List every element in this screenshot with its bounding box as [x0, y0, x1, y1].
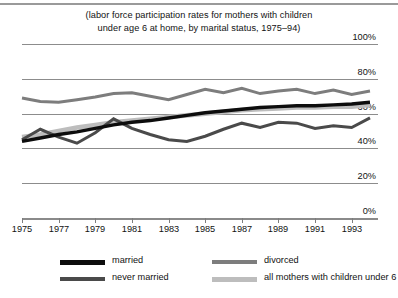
x-axis-tick-1985	[205, 218, 206, 223]
x-axis-label-1975: 1975	[2, 224, 42, 234]
x-axis-label-1987: 1987	[222, 224, 262, 234]
chart-title-line-1: (labor force participation rates for mot…	[0, 9, 398, 22]
chart-figure: (labor force participation rates for mot…	[0, 0, 398, 298]
legend-label: all mothers with children under 6	[264, 272, 396, 282]
legend-swatch-icon	[60, 260, 105, 265]
plot-area: 100%80%60%40%20%0% 197519771979198119831…	[22, 44, 378, 218]
x-axis-tick-1989	[278, 218, 279, 223]
x-axis-tick-1981	[132, 218, 133, 223]
legend-swatch-icon	[60, 277, 105, 281]
legend-label: never married	[112, 272, 169, 282]
x-axis-label-1983: 1983	[149, 224, 189, 234]
x-axis-tick-1987	[242, 218, 243, 223]
x-axis-label-1991: 1991	[295, 224, 335, 234]
x-axis-label-1985: 1985	[185, 224, 225, 234]
top-divider	[0, 3, 398, 5]
x-axis-label-1989: 1989	[258, 224, 298, 234]
x-axis-tick-1979	[95, 218, 96, 223]
legend-label: divorced	[264, 255, 299, 265]
chart-legend: marriednever marrieddivorcedall mothers …	[0, 250, 398, 294]
series-lines	[22, 44, 378, 218]
chart-title-line-2: under age 6 at home, by marital status, …	[0, 22, 398, 35]
x-axis-label-1977: 1977	[39, 224, 79, 234]
x-axis-tick-1977	[59, 218, 60, 223]
gridline-0	[22, 218, 378, 220]
x-axis-tick-1991	[315, 218, 316, 223]
legend-swatch-icon	[212, 260, 257, 264]
legend-label: married	[112, 255, 143, 265]
x-axis-label-1993: 1993	[332, 224, 372, 234]
x-axis-label-1979: 1979	[75, 224, 115, 234]
x-axis-tick-1975	[22, 218, 23, 223]
x-axis-label-1981: 1981	[112, 224, 152, 234]
y-axis-label-100: 100%	[353, 32, 377, 42]
legend-swatch-icon	[212, 277, 257, 282]
chart-title: (labor force participation rates for mot…	[0, 9, 398, 35]
x-axis-tick-1993	[352, 218, 353, 223]
x-axis-tick-1983	[169, 218, 170, 223]
series-line-divorced	[22, 88, 370, 102]
